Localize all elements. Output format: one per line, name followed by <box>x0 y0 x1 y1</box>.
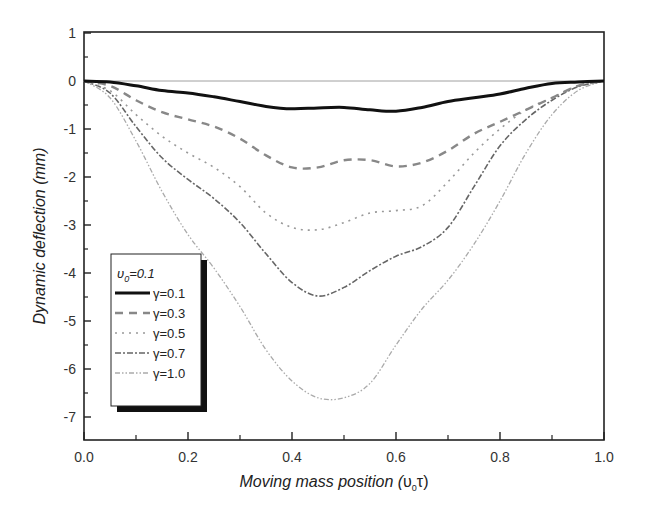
x-axis-label: Moving mass position (υ0τ) <box>239 473 428 493</box>
y-tick-label: 1 <box>68 25 76 41</box>
legend-label: γ=0.5 <box>153 326 185 341</box>
series-line <box>84 81 604 169</box>
y-tick-label: -6 <box>64 361 77 377</box>
legend-label: γ=0.7 <box>153 346 185 361</box>
x-tick-label: 0.4 <box>282 449 302 465</box>
y-axis-label: Dynamic deflection (mm) <box>31 148 48 325</box>
y-axis-ticks: 10-1-2-3-4-5-6-7 <box>64 25 91 425</box>
legend-label: γ=0.3 <box>153 306 185 321</box>
x-tick-label: 1.0 <box>594 449 614 465</box>
y-tick-label: -2 <box>64 169 77 185</box>
series-line <box>84 81 604 111</box>
y-tick-label: -5 <box>64 313 77 329</box>
series-line <box>84 81 604 230</box>
y-tick-label: -1 <box>64 121 77 137</box>
x-axis-ticks: 0.00.20.40.60.81.0 <box>74 432 614 465</box>
y-tick-label: -7 <box>64 409 77 425</box>
x-tick-label: 0.2 <box>178 449 198 465</box>
x-tick-label: 0.6 <box>386 449 406 465</box>
chart: 10-1-2-3-4-5-6-7 0.00.20.40.60.81.0 υ0=0… <box>0 0 654 519</box>
legend: υ0=0.1 γ=0.1γ=0.3γ=0.5γ=0.7γ=1.0 <box>111 254 207 412</box>
x-tick-label: 0.0 <box>74 449 94 465</box>
y-tick-label: -4 <box>64 265 77 281</box>
legend-label: γ=0.1 <box>153 286 185 301</box>
legend-label: γ=1.0 <box>153 366 185 381</box>
y-tick-label: -3 <box>64 217 77 233</box>
x-tick-label: 0.8 <box>490 449 510 465</box>
y-tick-label: 0 <box>68 73 76 89</box>
